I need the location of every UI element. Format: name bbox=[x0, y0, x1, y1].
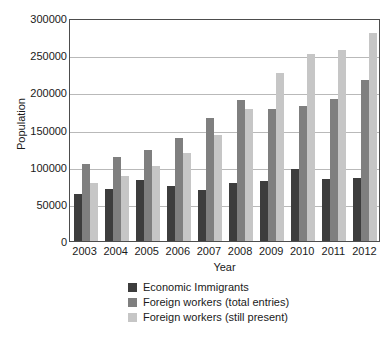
bar bbox=[136, 180, 144, 241]
bar bbox=[322, 179, 330, 241]
bar bbox=[113, 157, 121, 241]
bar bbox=[245, 109, 253, 241]
y-axis-tick-label: 300000 bbox=[5, 13, 67, 25]
legend-swatch-icon bbox=[128, 313, 137, 322]
y-axis-tick-label: 250000 bbox=[5, 50, 67, 62]
bar bbox=[237, 100, 245, 241]
bar bbox=[90, 183, 98, 241]
bar bbox=[260, 181, 268, 241]
bar bbox=[369, 33, 377, 241]
bar bbox=[105, 189, 113, 241]
bar bbox=[183, 153, 191, 241]
y-axis-tick-label: 150000 bbox=[5, 125, 67, 137]
bar bbox=[338, 50, 346, 241]
legend-label: Foreign workers (still present) bbox=[143, 311, 288, 323]
bar-group bbox=[101, 20, 132, 241]
bar-group bbox=[226, 20, 257, 241]
bar-group bbox=[288, 20, 319, 241]
bar bbox=[291, 169, 299, 241]
bar bbox=[299, 106, 307, 241]
bars-layer bbox=[70, 20, 379, 241]
legend-item: Foreign workers (total entries) bbox=[128, 296, 289, 308]
bar-group bbox=[163, 20, 194, 241]
bar bbox=[198, 190, 206, 241]
y-axis-tick-label: 200000 bbox=[5, 87, 67, 99]
bar bbox=[307, 54, 315, 241]
bar bbox=[214, 135, 222, 241]
bar bbox=[82, 164, 90, 241]
legend-label: Economic Immigrants bbox=[143, 281, 249, 293]
bar bbox=[330, 99, 338, 241]
bar-group bbox=[350, 20, 381, 241]
bar bbox=[152, 166, 160, 241]
bar bbox=[361, 80, 369, 241]
bar bbox=[353, 178, 361, 241]
bar bbox=[276, 73, 284, 241]
bar bbox=[268, 109, 276, 241]
bar-group bbox=[132, 20, 163, 241]
bar-group bbox=[194, 20, 225, 241]
bar bbox=[144, 150, 152, 241]
bar bbox=[121, 176, 129, 241]
legend: Economic ImmigrantsForeign workers (tota… bbox=[128, 281, 289, 323]
y-axis-tick-label: 100000 bbox=[5, 162, 67, 174]
bar-group bbox=[257, 20, 288, 241]
y-axis-tick-label: 0 bbox=[5, 236, 67, 248]
bar-group bbox=[319, 20, 350, 241]
x-axis-tick-label: 2012 bbox=[344, 245, 384, 257]
legend-swatch-icon bbox=[128, 283, 137, 292]
bar bbox=[74, 194, 82, 241]
bar bbox=[175, 138, 183, 241]
bar-group bbox=[70, 20, 101, 241]
legend-swatch-icon bbox=[128, 298, 137, 307]
bar-chart: Population 05000010000015000020000025000… bbox=[0, 0, 392, 343]
x-axis-title: Year bbox=[69, 261, 380, 273]
bar bbox=[206, 118, 214, 241]
bar bbox=[167, 186, 175, 241]
bar bbox=[229, 183, 237, 241]
legend-item: Economic Immigrants bbox=[128, 281, 289, 293]
legend-label: Foreign workers (total entries) bbox=[143, 296, 289, 308]
y-axis-tick-label: 50000 bbox=[5, 199, 67, 211]
legend-item: Foreign workers (still present) bbox=[128, 311, 289, 323]
plot-area bbox=[69, 19, 380, 242]
